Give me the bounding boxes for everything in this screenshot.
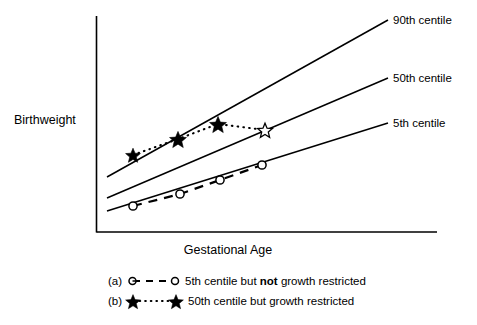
y-axis-title: Birthweight [14,113,76,127]
centile-label-5th: 5th centile [393,117,445,129]
legend-circle-marker-right [172,278,179,285]
series-a-point-2 [176,190,184,198]
x-axis-title: Gestational Age [184,243,272,257]
legend-tag-a: (a) [108,275,122,287]
legend-label-a-emphasis: not [260,275,278,287]
chart-figure: Birthweight Gestational Age 90th centile… [0,0,477,325]
legend-tag-b: (b) [108,295,122,307]
legend-label-a-before: 5th centile but [185,275,260,287]
legend-label-b: 50th centile but growth restricted [188,295,354,307]
series-a-point-4 [258,161,266,169]
series-a-point-3 [216,176,224,184]
legend-label-b-before: 50th centile but growth restricted [188,295,354,307]
legend-label-a: 5th centile but not growth restricted [185,275,366,287]
legend-label-a-after: growth restricted [278,275,366,287]
centile-label-50th: 50th centile [393,72,452,84]
centile-label-90th: 90th centile [393,14,452,26]
series-a-point-1 [129,202,137,210]
birthweight-centile-chart: Birthweight Gestational Age 90th centile… [0,0,477,325]
